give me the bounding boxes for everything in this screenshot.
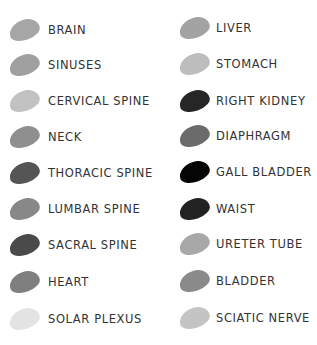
legend-item-diaphragm: DIAPHRAGM [168,122,317,152]
color-swatch-liver [177,14,213,43]
legend-label: BRAIN [48,23,86,37]
legend-label: HEART [48,275,89,289]
legend-item-bladder: BLADDER [168,267,317,297]
color-swatch-brain [7,16,43,45]
color-swatch-right-kidney [177,87,213,116]
color-swatch-heart [7,268,43,297]
color-swatch-sacral-spine [7,231,43,260]
legend-item-waist: WAIST [168,195,317,225]
color-swatch-waist [177,195,213,224]
color-swatch-gall-bladder [177,158,213,187]
legend-item-solar-plexus: SOLAR PLEXUS [0,305,150,335]
legend-item-gall-bladder: GALL BLADDER [168,158,317,188]
legend-label: WAIST [216,202,255,216]
legend-item-right-kidney: RIGHT KIDNEY [168,87,317,117]
legend-item-sinuses: SINUSES [0,51,150,81]
color-swatch-diaphragm [177,122,213,151]
legend-item-thoracic-spine: THORACIC SPINE [0,159,150,189]
legend-label: THORACIC SPINE [48,166,153,180]
color-swatch-sinuses [7,51,43,80]
color-swatch-neck [7,123,43,152]
legend-item-sciatic-nerve: SCIATIC NERVE [168,304,317,334]
color-swatch-solar-plexus [7,305,43,334]
legend-label: SCIATIC NERVE [216,311,310,325]
legend-item-sacral-spine: SACRAL SPINE [0,231,150,261]
legend-item-brain: BRAIN [0,16,150,46]
color-swatch-ureter-tube [177,230,213,259]
legend-label: NECK [48,130,82,144]
legend-label: BLADDER [216,274,276,288]
color-swatch-cervical-spine [7,87,43,116]
legend-item-cervical-spine: CERVICAL SPINE [0,87,150,117]
legend-item-neck: NECK [0,123,150,153]
legend-item-heart: HEART [0,268,150,298]
legend-item-stomach: STOMACH [168,50,317,80]
legend-item-lumbar-spine: LUMBAR SPINE [0,195,150,225]
color-swatch-lumbar-spine [7,195,43,224]
legend-item-liver: LIVER [168,14,317,44]
legend-label: SOLAR PLEXUS [48,312,142,326]
color-swatch-bladder [177,267,213,296]
legend-label: STOMACH [216,57,278,71]
color-swatch-stomach [177,50,213,79]
legend-item-ureter-tube: URETER TUBE [168,230,317,260]
legend-label: CERVICAL SPINE [48,94,150,108]
color-swatch-thoracic-spine [7,159,43,188]
color-swatch-sciatic-nerve [177,304,213,333]
legend-label: GALL BLADDER [216,165,312,179]
legend-label: LUMBAR SPINE [48,202,140,216]
legend-label: URETER TUBE [216,237,303,251]
legend-label: LIVER [216,21,252,35]
legend-label: SACRAL SPINE [48,238,137,252]
legend-label: DIAPHRAGM [216,129,291,143]
legend-label: SINUSES [48,58,102,72]
legend-label: RIGHT KIDNEY [216,94,306,108]
